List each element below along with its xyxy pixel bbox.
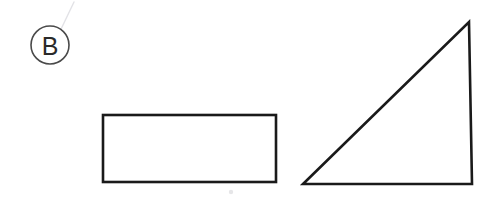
geometry-figure: B [0,0,496,202]
figure-label-letter: B [42,32,59,60]
speck-artifact [229,190,233,194]
right-triangle-shape [303,22,472,184]
scan-artifacts [52,2,233,194]
figure-canvas: B [0,0,496,202]
figure-label-marker: B [31,26,69,64]
rectangle-shape [103,115,276,182]
